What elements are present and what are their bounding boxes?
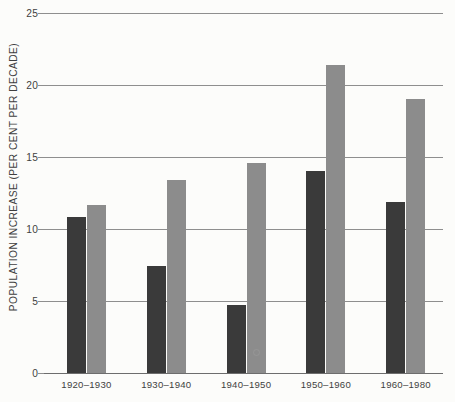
bar	[306, 171, 325, 373]
bar	[406, 99, 425, 373]
x-tick-label: 1930–1940	[141, 379, 191, 390]
bar	[147, 266, 166, 373]
y-axis-tick-marks	[0, 13, 44, 373]
x-tick-label: 1960–1980	[381, 379, 431, 390]
bar	[87, 205, 106, 373]
x-axis-line	[44, 373, 443, 374]
x-tick-label: 1950–1960	[301, 379, 351, 390]
x-tick-label: 1940–1950	[221, 379, 271, 390]
bars-layer	[44, 13, 443, 373]
bar-group	[67, 13, 106, 373]
bar-group	[227, 13, 266, 373]
scan-artifact-speck	[253, 349, 260, 356]
bar	[167, 180, 186, 373]
bar-group	[147, 13, 186, 373]
bar-chart: POPULATION INCREASE (PER CENT PER DECADE…	[0, 0, 455, 402]
bar-group	[306, 13, 345, 373]
x-tick-label: 1920–1930	[61, 379, 111, 390]
x-axis-tick-labels: 1920–19301930–19401940–19501950–19601960…	[44, 379, 443, 397]
bar-group	[386, 13, 425, 373]
bar	[386, 202, 405, 373]
bar	[326, 65, 345, 373]
bar	[67, 217, 86, 373]
bar	[227, 305, 246, 373]
bar	[247, 163, 266, 373]
